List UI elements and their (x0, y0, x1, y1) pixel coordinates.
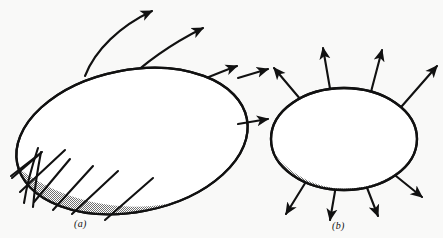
panel-a-label: (a) (74, 218, 87, 229)
inflow-arrow-1-line (238, 69, 268, 78)
panel-a-group (0, 11, 268, 238)
panel-b-label: (b) (332, 220, 345, 231)
panel-b-group (262, 48, 437, 220)
figure-container: (a) (b) (0, 0, 443, 238)
panel-a-surface (4, 49, 261, 233)
figure-canvas (0, 0, 443, 238)
